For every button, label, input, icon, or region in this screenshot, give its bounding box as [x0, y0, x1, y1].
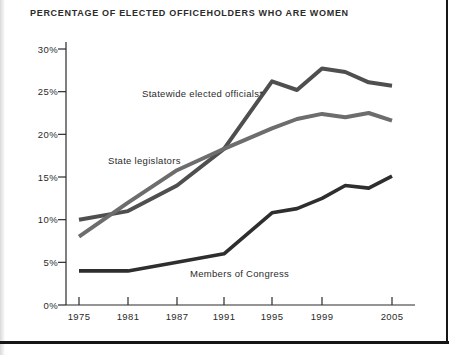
frame-rule-right [446, 0, 448, 344]
series-line-members-of-congress [79, 176, 392, 271]
y-tick-label: 25% [38, 86, 58, 97]
series-label: Members of Congress [190, 268, 289, 279]
y-tick-label: 15% [38, 172, 58, 183]
chart: 0%5%10%15%20%25%30%197519811987199119951… [0, 0, 462, 355]
x-tick-label: 1975 [68, 311, 91, 322]
y-tick-label: 10% [38, 214, 58, 225]
y-tick-label: 0% [43, 300, 58, 311]
series-label: Statewide elected officials* [142, 88, 263, 99]
x-tick-label: 1999 [311, 311, 334, 322]
series-label: State legislators [108, 155, 181, 166]
frame-rule-bottom [0, 341, 449, 344]
x-tick-label: 1981 [117, 311, 140, 322]
y-tick-label: 30% [38, 44, 58, 55]
x-tick-label: 2005 [381, 311, 404, 322]
y-tick-label: 20% [38, 129, 58, 140]
y-tick-label: 5% [43, 257, 58, 268]
x-tick-label: 1991 [213, 311, 236, 322]
figure-container: PERCENTAGE OF ELECTED OFFICEHOLDERS WHO … [0, 0, 462, 355]
x-tick-label: 1987 [166, 311, 189, 322]
x-tick-label: 1995 [261, 311, 284, 322]
